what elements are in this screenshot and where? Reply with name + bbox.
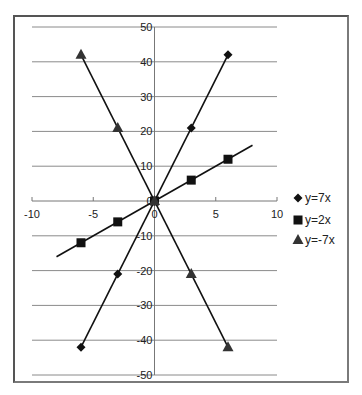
legend: y=7xy=2xy=-7x bbox=[293, 191, 335, 247]
data-point bbox=[76, 49, 87, 59]
y-tick-label: -30 bbox=[137, 299, 153, 311]
x-tick-label: -10 bbox=[24, 208, 40, 220]
y-tick-label: 30 bbox=[140, 91, 152, 103]
data-point bbox=[224, 155, 233, 164]
data-point bbox=[112, 122, 123, 132]
x-tick-labels: -10-50510 bbox=[24, 208, 283, 220]
chart: -50-40-30-20-1001020304050 -10-50510 y=7… bbox=[0, 0, 362, 395]
x-tick-label: 0 bbox=[151, 208, 157, 220]
legend-label: y=2x bbox=[305, 213, 331, 227]
data-point bbox=[77, 238, 86, 247]
y-tick-label: -20 bbox=[137, 265, 153, 277]
data-point bbox=[224, 50, 233, 59]
legend-marker bbox=[293, 234, 304, 244]
x-tick-label: 10 bbox=[271, 208, 283, 220]
data-point bbox=[223, 341, 234, 351]
legend-label: y=-7x bbox=[305, 233, 335, 247]
y-tick-label: 10 bbox=[140, 160, 152, 172]
legend-marker bbox=[294, 194, 303, 203]
y-tick-label: -40 bbox=[137, 334, 153, 346]
y-tick-label: -50 bbox=[137, 369, 153, 381]
y-tick-label: 50 bbox=[140, 21, 152, 33]
data-point bbox=[186, 268, 197, 278]
legend-label: y=7x bbox=[305, 191, 331, 205]
y-tick-label: 40 bbox=[140, 56, 152, 68]
y-tick-label: 20 bbox=[140, 125, 152, 137]
x-tick-label: 5 bbox=[213, 208, 219, 220]
data-point bbox=[77, 343, 86, 352]
x-tick-label: -5 bbox=[88, 208, 98, 220]
data-point bbox=[187, 176, 196, 185]
data-point bbox=[113, 217, 122, 226]
legend-marker bbox=[294, 216, 303, 225]
